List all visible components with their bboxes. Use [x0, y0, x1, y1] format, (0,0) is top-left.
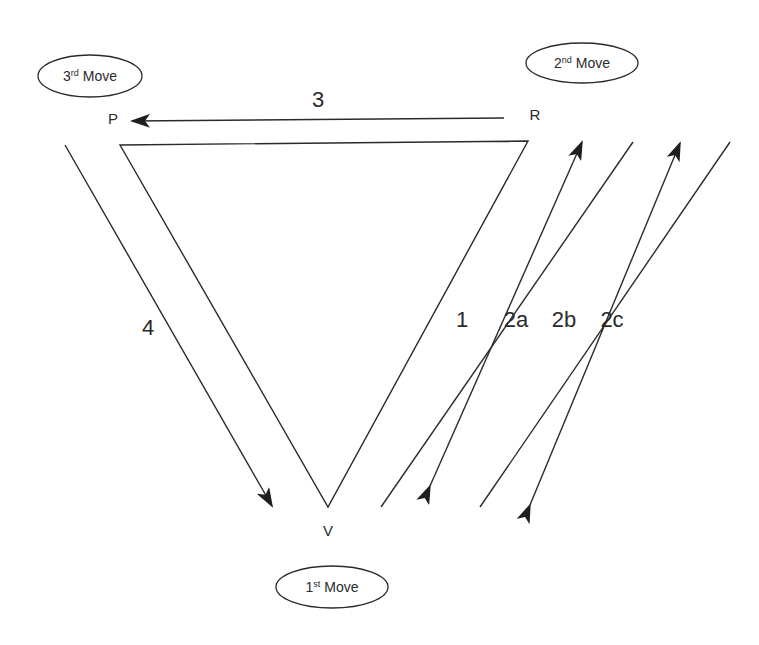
- node-p-label: P: [108, 110, 118, 127]
- arrow-4-p-to-v: [65, 145, 272, 506]
- arrow-4-label: 4: [142, 315, 154, 340]
- vrp-triangle-diagram: 3rd Move 2nd Move 1st Move P R V 3 4 1 2…: [0, 0, 759, 645]
- arrow-2b-label: 2b: [552, 307, 576, 332]
- third-move-bubble: 3rd Move: [38, 55, 142, 97]
- arrow-2a-label: 2a: [504, 307, 529, 332]
- node-v-label: V: [323, 522, 333, 539]
- arrow-2c-label: 2c: [600, 307, 623, 332]
- third-move-label: 3rd Move: [63, 68, 117, 84]
- first-move-label: 1st Move: [306, 579, 359, 595]
- arrow-3-label: 3: [312, 87, 324, 112]
- node-r-label: R: [530, 106, 541, 123]
- second-move-label: 2nd Move: [554, 55, 610, 71]
- arrow-1-label: 1: [456, 307, 468, 332]
- first-move-bubble: 1st Move: [276, 566, 388, 608]
- arrow-3-r-to-p: [132, 118, 504, 121]
- second-move-bubble: 2nd Move: [526, 43, 638, 83]
